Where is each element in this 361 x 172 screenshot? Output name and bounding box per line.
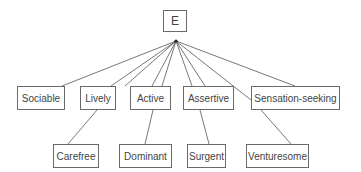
node-label: Dominant [124, 151, 167, 162]
node-label: Sensation-seeking [254, 93, 336, 104]
sub-line [261, 110, 291, 144]
trait-sensation-seeking: Sensation-seeking [251, 86, 340, 110]
node-label: Carefree [57, 151, 96, 162]
trait-sociable: Sociable [17, 86, 65, 110]
fan-line [62, 41, 176, 86]
trait-assertive: Assertive [183, 86, 234, 110]
fan-line [111, 41, 176, 86]
trait-venturesome: Venturesome [246, 144, 309, 168]
fan-line [176, 41, 295, 86]
node-label: Venturesome [248, 151, 307, 162]
sub-line [145, 110, 153, 144]
sub-line [68, 110, 97, 144]
node-label: Sociable [22, 93, 60, 104]
trait-lively: Lively [80, 86, 116, 110]
trait-surgent: Surgent [187, 144, 226, 168]
node-label: Active [137, 93, 164, 104]
node-label: Surgent [189, 151, 224, 162]
fan-line [176, 41, 205, 86]
fan-line [125, 41, 176, 86]
apex-point [174, 39, 177, 42]
root-node-e: E [163, 10, 187, 32]
node-label: Assertive [188, 93, 229, 104]
trait-active: Active [130, 86, 171, 110]
sub-line [200, 110, 209, 144]
trait-dominant: Dominant [119, 144, 172, 168]
root-label: E [171, 14, 179, 28]
node-label: Lively [85, 93, 111, 104]
trait-carefree: Carefree [53, 144, 99, 168]
